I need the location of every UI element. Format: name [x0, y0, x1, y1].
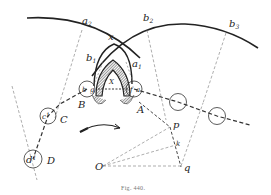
radial-line-b2 — [147, 30, 166, 120]
label-d1: d1 — [26, 154, 36, 165]
label-b3: b3 — [229, 18, 239, 30]
line-O-p — [103, 127, 170, 166]
label-b1: b1 — [86, 52, 96, 64]
figure-caption: Fig. 440. — [121, 185, 145, 191]
label-f-small: f — [129, 86, 134, 94]
label-D: D — [46, 155, 55, 166]
label-a1: a1 — [132, 58, 142, 70]
radial-line-b3 — [203, 33, 226, 103]
radial-line-left — [12, 86, 37, 180]
label-b2: b2 — [143, 12, 153, 24]
fig-440-diagram: a2 b2 b3 x b1 a1 X b g f a B A c1 C d1 D… — [0, 0, 271, 195]
label-C: C — [60, 114, 68, 125]
label-x: x — [108, 31, 114, 42]
rotation-arrow-tail — [80, 128, 88, 132]
label-O: O — [95, 161, 103, 172]
label-q: q — [184, 162, 190, 173]
label-p: p — [173, 119, 180, 130]
line-O-k — [103, 145, 176, 166]
line-q-up — [181, 103, 203, 166]
label-a2: a2 — [82, 15, 92, 27]
label-g-small: g — [90, 86, 95, 94]
label-a-small: a — [136, 86, 140, 94]
label-c1: c1 — [42, 111, 50, 121]
label-X: X — [108, 78, 115, 86]
label-b-small: b — [82, 86, 87, 94]
label-k: k — [176, 140, 180, 148]
label-B: B — [77, 99, 85, 110]
label-A: A — [136, 104, 144, 115]
roller-path-right — [134, 89, 250, 125]
